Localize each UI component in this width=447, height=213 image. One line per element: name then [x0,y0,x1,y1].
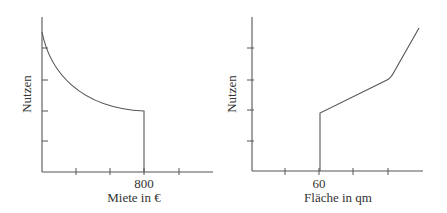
chart-flaeche: Nutzen 60 Fläche in qm [224,17,423,205]
utility-curve-flaeche [320,28,419,171]
right-ylabel: Nutzen [224,75,239,113]
left-xtick-800: 800 [134,176,154,191]
right-y-ticks [247,48,254,141]
left-xlabel: Miete in € [107,190,161,205]
chart-canvas: Nutzen 800 Miete in € Nutzen 60 Fläche i… [0,0,447,213]
right-xlabel: Fläche in qm [304,190,372,205]
utility-curve-miete [42,32,144,172]
left-y-ticks [42,48,48,141]
chart-miete: Nutzen 800 Miete in € [19,17,213,205]
left-ylabel: Nutzen [19,75,34,113]
right-xtick-60: 60 [313,176,326,191]
